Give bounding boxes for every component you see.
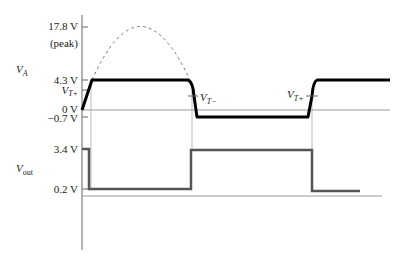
tick-label-vt-plus: VT+ xyxy=(61,84,78,98)
va-waveform xyxy=(82,80,390,117)
vout-ticks xyxy=(82,149,88,189)
annotation-vt-plus: VT+ xyxy=(287,88,304,103)
unclamped-sine-dashed xyxy=(92,27,190,81)
tick-label-0-2v: 0.2 V xyxy=(54,183,78,195)
tick-label-17-8v: 17.8 V xyxy=(48,20,78,32)
tick-label-3-4v: 3.4 V xyxy=(54,143,78,155)
schmitt-trigger-waveform-diagram: 17.8 V (peak) 4.3 V VT+ 0 V −0.7 V VA VT… xyxy=(0,0,393,265)
vout-axis-label: Vout xyxy=(16,162,34,177)
tick-label-peak: (peak) xyxy=(50,37,78,50)
vout-waveform xyxy=(82,149,360,191)
annotation-vt-minus: VT− xyxy=(200,91,217,106)
tick-label-neg-0-7v: −0.7 V xyxy=(48,112,79,124)
va-axis-label: VA xyxy=(16,63,28,78)
